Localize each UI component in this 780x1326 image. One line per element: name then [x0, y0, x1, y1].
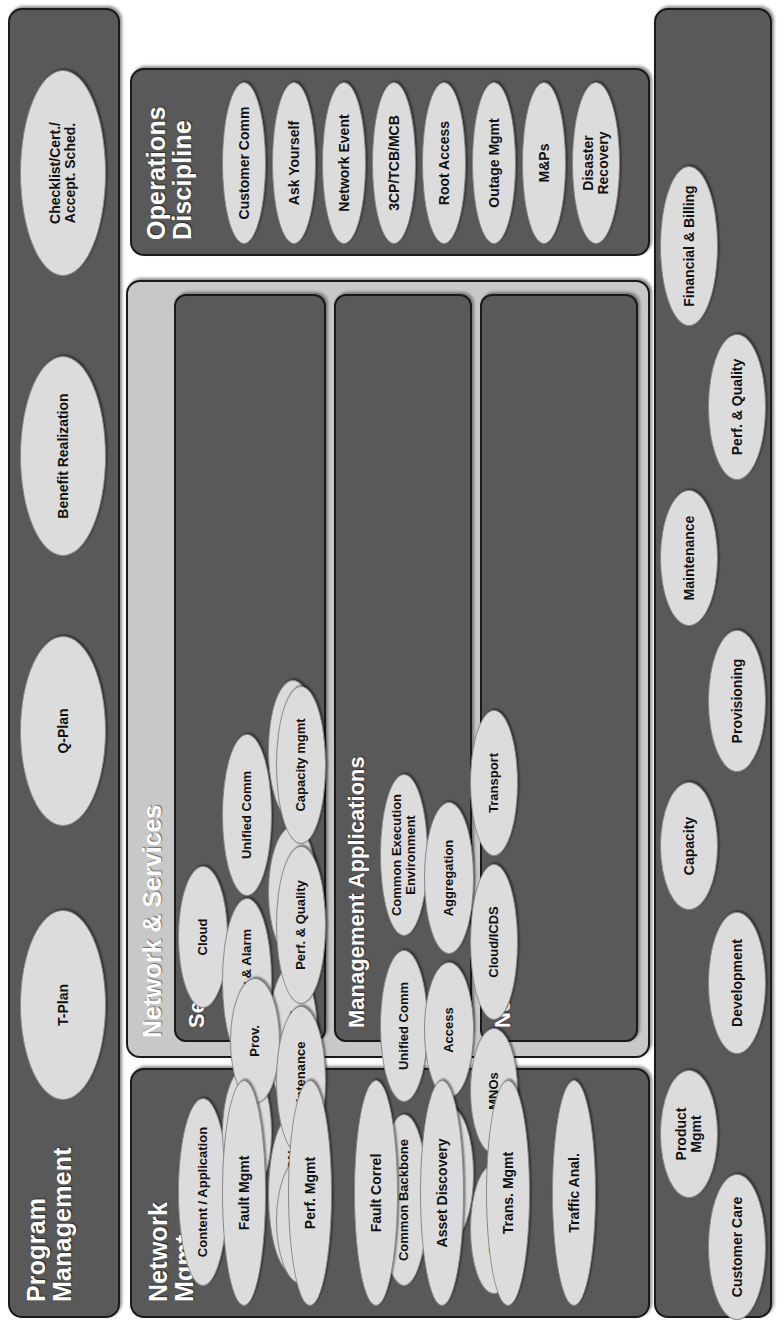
node-network-row1[interactable]: Common Execution Environment — [380, 774, 428, 936]
node-label: Common Execution Environment — [390, 794, 418, 916]
node-label: Disaster Recovery — [581, 131, 611, 194]
node-label: Access — [442, 1007, 456, 1053]
node-label: Capacity — [682, 817, 697, 875]
section-operations-discipline-title: Operations Discipline — [144, 106, 195, 240]
node-label: Q-Plan — [56, 708, 71, 753]
node-network-mgmt[interactable]: Asset Discovery — [420, 1080, 464, 1306]
node-label: Fault Correl — [369, 1154, 384, 1233]
node-label: Outage Mgmt — [487, 118, 502, 207]
section-program-management-title: Program Management — [24, 1147, 75, 1302]
node-label: Common Backbone — [397, 1139, 411, 1261]
node-process-lower[interactable]: Development — [708, 912, 766, 1054]
node-process-lower[interactable]: Customer Care — [708, 1174, 766, 1320]
node-network-mgmt[interactable]: Fault Correl — [354, 1080, 398, 1306]
node-services-row1[interactable]: Content / Application — [178, 1098, 228, 1286]
node-label: Development — [730, 939, 745, 1027]
node-program-management[interactable]: Benefit Realization — [20, 356, 106, 556]
node-process-lower[interactable]: Provisioning — [708, 630, 766, 772]
node-network-mgmt[interactable]: Traffic Anal. — [552, 1080, 596, 1306]
node-label: 3CP/TCB/MCB — [387, 115, 402, 211]
node-label: Content / Application — [196, 1127, 210, 1257]
node-network-row1[interactable]: Unified Comm — [380, 950, 428, 1102]
node-process-upper[interactable]: Capacity — [660, 782, 718, 910]
node-process-upper[interactable]: Maintenance — [660, 490, 718, 626]
node-network-mgmt[interactable]: Fault Mgmt — [222, 1080, 266, 1306]
node-label: Fault Mgmt — [237, 1156, 252, 1231]
node-management-applications-row2[interactable]: Perf. & Quality — [276, 846, 326, 1004]
node-label: Transport — [487, 753, 501, 813]
node-services-row1[interactable]: Cloud — [178, 866, 228, 1008]
node-network-row2[interactable]: Access — [424, 962, 474, 1098]
node-label: Traffic Anal. — [567, 1153, 582, 1233]
node-network-mgmt[interactable]: Trans. Mgmt — [486, 1080, 530, 1306]
node-label: Product Mgmt — [674, 1108, 704, 1161]
node-network-row3[interactable]: Cloud/ICDS — [470, 864, 518, 1020]
node-label: Asset Discovery — [435, 1139, 450, 1248]
node-services-row2[interactable]: Unified Comm — [222, 734, 272, 896]
node-label: M&Ps — [537, 144, 552, 183]
node-process-upper[interactable]: Product Mgmt — [660, 1070, 718, 1198]
node-label: T-Plan — [56, 984, 71, 1026]
node-management-applications-row2[interactable]: Capacity mgmt — [276, 686, 326, 844]
node-program-management[interactable]: Checklist/Cert./ Accept. Sched. — [20, 70, 106, 276]
node-label: Prov. — [248, 1025, 262, 1057]
node-label: Perf. & Quality — [730, 359, 745, 455]
node-label: Provisioning — [730, 659, 745, 744]
node-label: Cloud — [196, 919, 210, 956]
node-network-row3[interactable]: Transport — [470, 710, 518, 856]
node-operations-discipline[interactable]: Disaster Recovery — [572, 82, 620, 244]
node-label: Ask Yourself — [287, 121, 302, 205]
node-process-lower[interactable]: Perf. & Quality — [708, 334, 766, 480]
node-label: Customer Care — [730, 1197, 745, 1297]
node-label: Benefit Realization — [56, 393, 71, 518]
node-label: Aggregation — [442, 840, 456, 917]
node-label: Financial & Billing — [682, 185, 697, 306]
node-operations-discipline[interactable]: 3CP/TCB/MCB — [372, 82, 416, 244]
node-program-management[interactable]: T-Plan — [20, 910, 106, 1100]
node-label: Trans. Mgmt — [501, 1152, 516, 1234]
node-label: Customer Comm — [237, 107, 252, 220]
node-label: Checklist/Cert./ Accept. Sched. — [48, 122, 78, 224]
node-program-management[interactable]: Q-Plan — [20, 636, 106, 826]
node-operations-discipline[interactable]: M&Ps — [522, 82, 566, 244]
node-label: Perf. Mgmt — [303, 1157, 318, 1229]
node-label: Network Event — [337, 114, 352, 211]
section-network-and-services-title: Network & Services — [138, 805, 167, 1038]
node-label: Cloud/ICDS — [487, 906, 501, 978]
node-process-upper[interactable]: Financial & Billing — [660, 166, 718, 326]
node-label: Maintenance — [682, 516, 697, 601]
diagram-page: Process Operations Discipline Network & … — [0, 0, 780, 1326]
node-label: Perf. & Quality — [294, 880, 308, 970]
node-network-row2[interactable]: Aggregation — [424, 802, 474, 954]
node-operations-discipline[interactable]: Network Event — [322, 82, 366, 244]
node-label: Capacity mgmt — [294, 718, 308, 811]
subsection-management-applications-title: Management Applications — [344, 756, 370, 1028]
diagram-stage: Process Operations Discipline Network & … — [0, 0, 780, 1326]
node-operations-discipline[interactable]: Customer Comm — [222, 82, 266, 244]
node-operations-discipline[interactable]: Ask Yourself — [272, 82, 316, 244]
node-label: Unified Comm — [240, 771, 254, 859]
node-label: Unified Comm — [397, 982, 411, 1070]
node-network-mgmt[interactable]: Perf. Mgmt — [288, 1080, 332, 1306]
node-operations-discipline[interactable]: Root Access — [422, 82, 466, 244]
node-label: Root Access — [437, 121, 452, 205]
node-operations-discipline[interactable]: Outage Mgmt — [472, 82, 516, 244]
